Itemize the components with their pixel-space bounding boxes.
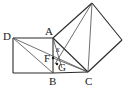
point-F: [52, 57, 54, 59]
segment-T2C: [88, 40, 122, 72]
figure-canvas: [0, 0, 127, 95]
vertex-label-F: F: [44, 53, 50, 64]
segment-AT1: [53, 3, 92, 38]
vertex-label-G: G: [58, 62, 66, 73]
vertex-label-D: D: [3, 31, 11, 42]
geometry-figure: D A B C F G x: [0, 0, 127, 95]
vertex-label-A: A: [45, 26, 53, 37]
vertex-label-B: B: [49, 76, 56, 87]
segment-T1T2: [92, 3, 122, 40]
segment-T1G: [55, 3, 92, 64]
segment-T1C: [88, 3, 92, 72]
angle-label-x: x: [56, 46, 60, 54]
segment-DC: [13, 38, 88, 72]
vertex-label-C: C: [85, 76, 92, 87]
